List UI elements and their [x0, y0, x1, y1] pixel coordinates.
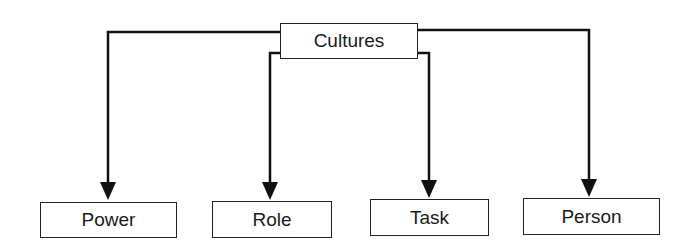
node-cultures-label: Cultures	[314, 30, 385, 52]
node-person-label: Person	[561, 206, 621, 228]
arrowhead-task	[421, 180, 437, 198]
connector-role	[270, 53, 281, 185]
node-role-label: Role	[252, 209, 291, 231]
node-power-label: Power	[82, 209, 136, 231]
node-power: Power	[40, 202, 177, 238]
connector-person	[417, 30, 589, 182]
connector-power	[108, 32, 281, 185]
arrowhead-power	[100, 182, 116, 200]
node-cultures: Cultures	[280, 23, 418, 59]
node-task-label: Task	[410, 207, 449, 229]
arrowhead-role	[262, 182, 278, 200]
node-role: Role	[212, 201, 332, 238]
node-person: Person	[523, 198, 660, 235]
arrowhead-person	[581, 179, 597, 197]
node-task: Task	[370, 199, 489, 236]
connector-task	[417, 53, 429, 183]
